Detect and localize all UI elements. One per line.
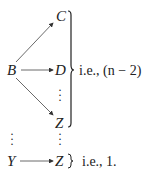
- arrows-layer: [0, 0, 153, 176]
- small-brace: [68, 154, 73, 168]
- right-brace: [68, 11, 74, 127]
- ellipsis-right: ···: [58, 132, 62, 147]
- node-z-bottom: Z: [55, 154, 63, 169]
- node-d: D: [55, 63, 66, 78]
- node-b: B: [7, 63, 16, 78]
- arrow-b-to-c: [16, 23, 53, 62]
- node-y: Y: [7, 154, 15, 169]
- single-label: i.e., 1.: [82, 155, 117, 169]
- arrow-b-to-z: [16, 78, 53, 115]
- ellipsis-left: ···: [10, 132, 14, 147]
- ellipsis-d-z: ···: [58, 88, 62, 103]
- node-c: C: [56, 9, 66, 24]
- group-label: i.e., (n − 2): [79, 64, 141, 78]
